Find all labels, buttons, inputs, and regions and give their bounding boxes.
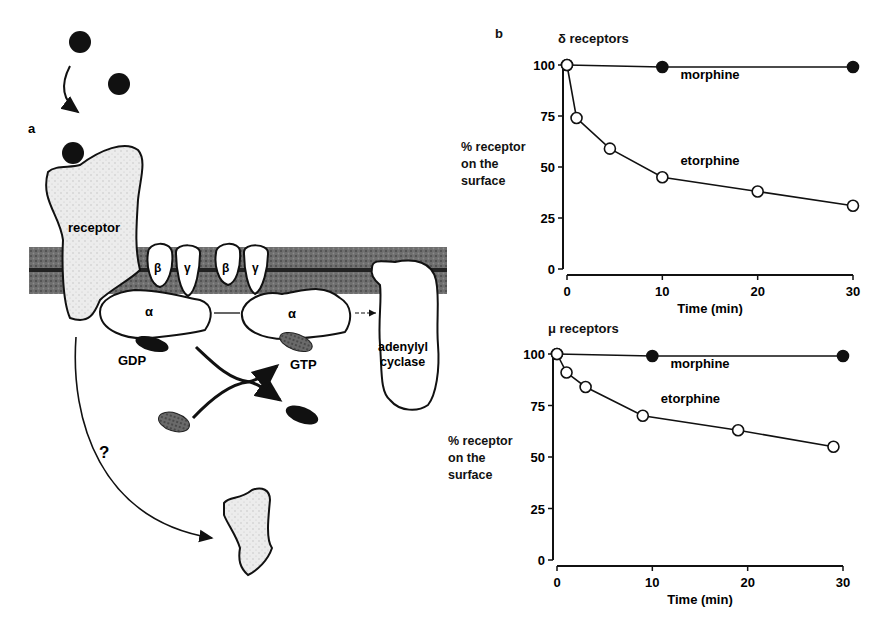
- y-tick-label: 0: [538, 553, 545, 568]
- ligand-binding-arrow-icon: [64, 66, 78, 112]
- panel-b-label: b: [495, 26, 503, 41]
- series-annotation-morphine: morphine: [670, 356, 729, 371]
- alpha-label: α: [145, 304, 153, 319]
- y-tick-label: 100: [533, 58, 555, 73]
- open-circle-marker-icon: [552, 349, 563, 360]
- gtp-binding-arrow-icon: [193, 366, 277, 418]
- x-tick-label: 20: [750, 284, 764, 299]
- released-gdp-icon: [283, 402, 320, 429]
- beta-label: β: [222, 261, 229, 275]
- internalized-receptor-shape: [224, 488, 272, 575]
- alpha-subunit-gtp-shape: [242, 289, 350, 339]
- y-tick-label: 75: [531, 399, 545, 414]
- receptor-label: receptor: [68, 220, 120, 235]
- y-tick-label: 50: [541, 160, 555, 175]
- open-circle-marker-icon: [848, 200, 859, 211]
- y-tick-label: 25: [531, 502, 545, 517]
- open-circle-marker-icon: [561, 367, 572, 378]
- open-circle-marker-icon: [604, 143, 615, 154]
- x-tick-label: 0: [553, 575, 560, 590]
- series-line-etorphine: [567, 65, 853, 206]
- panel-a-label: a: [28, 121, 36, 136]
- beta-label: β: [154, 261, 161, 275]
- open-circle-marker-icon: [828, 441, 839, 452]
- open-circle-marker-icon: [752, 186, 763, 197]
- gtp-label: GTP: [290, 357, 317, 372]
- open-circle-marker-icon: [657, 172, 668, 183]
- filled-circle-marker-icon: [657, 62, 668, 73]
- x-tick-label: 10: [645, 575, 659, 590]
- y-tick-label: 100: [523, 347, 545, 362]
- open-circle-marker-icon: [571, 113, 582, 124]
- panel-a-diagram: a receptor β γ β γ α GDP α GTP adenylyl …: [0, 0, 490, 626]
- chart-mu-receptors: 02550751000102030Time (min)morphineetorp…: [490, 330, 882, 626]
- x-tick-label: 10: [655, 284, 669, 299]
- y-tick-label: 75: [541, 109, 555, 124]
- x-axis-label: Time (min): [677, 301, 743, 316]
- filled-circle-marker-icon: [647, 351, 658, 362]
- open-circle-marker-icon: [580, 381, 591, 392]
- filled-circle-marker-icon: [838, 351, 849, 362]
- x-tick-label: 20: [740, 575, 754, 590]
- adenylyl-label-2: cyclase: [380, 355, 425, 369]
- gamma-label: γ: [252, 261, 259, 275]
- filled-circle-marker-icon: [848, 62, 859, 73]
- open-circle-marker-icon: [733, 425, 744, 436]
- y-tick-label: 50: [531, 450, 545, 465]
- adenylyl-label-1: adenylyl: [378, 340, 428, 354]
- x-tick-label: 0: [563, 284, 570, 299]
- series-annotation-etorphine: etorphine: [680, 153, 739, 168]
- ligand-icon: [62, 142, 84, 164]
- x-tick-label: 30: [836, 575, 850, 590]
- free-gtp-icon: [156, 408, 192, 435]
- chart-delta-receptors: 02550751000102030Time (min)morphineetorp…: [490, 40, 882, 320]
- open-circle-marker-icon: [562, 60, 573, 71]
- series-annotation-etorphine: etorphine: [661, 391, 720, 406]
- y-tick-label: 0: [548, 262, 555, 277]
- gamma-label: γ: [184, 261, 191, 275]
- open-circle-marker-icon: [637, 410, 648, 421]
- ligand-icon: [69, 31, 91, 53]
- ligand-icon: [108, 73, 130, 95]
- gdp-label: GDP: [118, 353, 147, 368]
- alpha-subunit-gdp-shape: [100, 290, 211, 338]
- x-axis-label: Time (min): [667, 592, 733, 607]
- question-mark-label: ?: [99, 443, 109, 462]
- y-tick-label: 25: [541, 211, 555, 226]
- alpha-label: α: [288, 306, 296, 321]
- adenylyl-cyclase-shape: [371, 261, 438, 410]
- series-annotation-morphine: morphine: [680, 67, 739, 82]
- x-tick-label: 30: [846, 284, 860, 299]
